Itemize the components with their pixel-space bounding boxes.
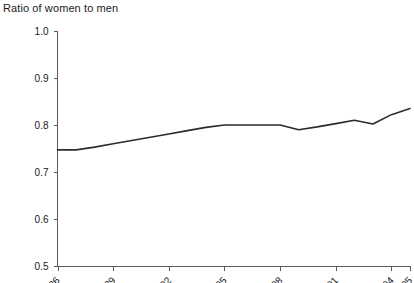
- series-group: [58, 109, 411, 150]
- x-tick-label: 05: [399, 274, 414, 283]
- y-tick-label: 1.0: [35, 26, 49, 37]
- y-axis: 0.50.60.70.80.91.0: [35, 26, 58, 272]
- line-chart: Ratio of women to men 0.50.60.70.80.91.0…: [0, 0, 414, 283]
- y-tick-group: 0.50.60.70.80.91.0: [35, 26, 58, 272]
- x-tick-group: 8689929598010405: [46, 266, 414, 283]
- x-tick-label: 86: [46, 274, 62, 283]
- y-tick-label: 0.5: [35, 261, 49, 272]
- x-tick-label: 98: [269, 274, 285, 283]
- y-tick-label: 0.9: [35, 73, 49, 84]
- plot-area: 0.50.60.70.80.91.0 8689929598010405: [0, 0, 414, 283]
- y-tick-label: 0.6: [35, 214, 49, 225]
- y-tick-label: 0.7: [35, 167, 49, 178]
- y-tick-label: 0.8: [35, 120, 49, 131]
- series-line-ratio-of-women-to-men: [58, 109, 411, 150]
- x-axis: 8689929598010405: [46, 266, 414, 283]
- x-tick-label: 04: [380, 274, 396, 283]
- x-tick-label: 95: [213, 274, 229, 283]
- x-tick-label: 89: [102, 274, 118, 283]
- x-tick-label: 01: [325, 274, 341, 283]
- x-tick-label: 92: [158, 274, 174, 283]
